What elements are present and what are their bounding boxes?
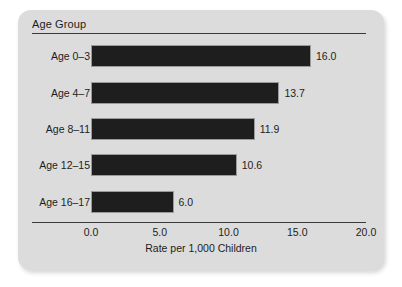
bar	[91, 191, 174, 213]
chart-panel: Age Group Age 0–316.0Age 4–713.7Age 8–11…	[18, 10, 384, 270]
bar-row: Age 4–713.7	[18, 74, 384, 110]
bar-value-label: 6.0	[179, 196, 194, 208]
bar-category-label: Age 16–17	[39, 196, 90, 208]
bar-category-label: Age 0–3	[51, 50, 90, 62]
bar-row: Age 0–316.0	[18, 38, 384, 74]
x-axis-tick-label: 0.0	[84, 226, 99, 238]
x-axis-title: Rate per 1,000 Children	[18, 242, 384, 254]
bar	[91, 154, 237, 176]
figure-root: Age Group Age 0–316.0Age 4–713.7Age 8–11…	[0, 0, 402, 287]
bar-category-label: Age 8–11	[46, 123, 90, 135]
bar	[91, 82, 279, 104]
bar-row: Age 16–176.0	[18, 184, 384, 220]
x-axis-line	[32, 222, 366, 223]
bar-category-label: Age 12–15	[39, 159, 90, 171]
bar-category-label: Age 4–7	[51, 87, 90, 99]
bar-value-label: 16.0	[316, 50, 336, 62]
plot-area: Age 0–316.0Age 4–713.7Age 8–1111.9Age 12…	[18, 38, 384, 220]
bar-value-label: 11.9	[260, 123, 280, 135]
bar-row: Age 8–1111.9	[18, 111, 384, 147]
bar	[91, 45, 311, 67]
x-axis-tick-label: 15.0	[287, 226, 307, 238]
bar-value-label: 13.7	[284, 87, 304, 99]
x-axis-tick-label: 5.0	[152, 226, 167, 238]
title-rule-divider	[32, 33, 366, 34]
bar-value-label: 10.6	[242, 159, 262, 171]
bar	[91, 118, 255, 140]
bar-row: Age 12–1510.6	[18, 147, 384, 183]
x-axis-tick-label: 20.0	[356, 226, 376, 238]
x-axis-tick-label: 10.0	[218, 226, 238, 238]
panel-title: Age Group	[32, 18, 86, 30]
